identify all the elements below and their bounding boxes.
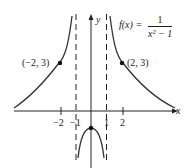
function-fraction: 1 x² − 1 [148, 14, 172, 39]
x-axis-label: x [176, 106, 180, 116]
point-label-right: (2, 3) [127, 58, 149, 68]
y-axis-arrow-icon [89, 14, 94, 20]
point-2-3 [120, 61, 124, 65]
function-numerator: 1 [148, 14, 172, 27]
point-label-left: (−2, 3) [22, 58, 49, 68]
function-denominator: x² − 1 [148, 27, 172, 39]
tick-label-neg2: −2 [53, 118, 64, 128]
tick-label-neg1: −1 [70, 118, 81, 128]
function-lhs: f(x) = [119, 20, 142, 30]
point-neg2-3 [58, 61, 62, 65]
point-0-neg1 [89, 126, 93, 130]
y-axis-label: y [96, 15, 100, 25]
tick-label-1: 1 [104, 118, 109, 128]
tick-label-2: 2 [120, 118, 125, 128]
